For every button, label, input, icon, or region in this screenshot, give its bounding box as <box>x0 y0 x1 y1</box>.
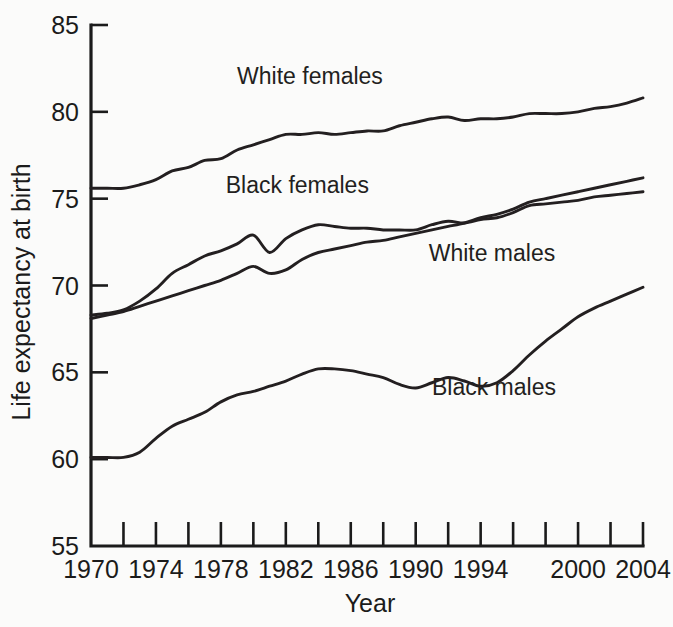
y-tick-label-group: 55606570758085 <box>51 11 79 560</box>
y-axis-tick-label: 85 <box>51 11 79 39</box>
y-axis-tick-label: 70 <box>51 272 79 300</box>
x-axis-tick-label: 1990 <box>388 555 444 583</box>
y-axis-tick-group <box>91 25 108 459</box>
x-axis-tick-label: 2004 <box>615 555 671 583</box>
x-axis-tick-label: 1970 <box>63 555 119 583</box>
chart-axes <box>91 25 643 546</box>
series-label-black-females: Black females <box>226 172 369 198</box>
chart-canvas: 55606570758085 1970197419781982198619901… <box>0 0 673 627</box>
y-axis-tick-label: 60 <box>51 445 79 473</box>
x-axis-tick-label: 1974 <box>128 555 184 583</box>
series-label-white-males: White males <box>429 240 556 266</box>
series-line-black-males <box>91 287 643 458</box>
x-axis-title: Year <box>345 589 396 617</box>
series-group <box>91 98 643 458</box>
y-axis-tick-label: 80 <box>51 98 79 126</box>
x-tick-label-group: 197019741978198219861990199420002004 <box>63 555 671 583</box>
x-axis-tick-label: 1982 <box>258 555 314 583</box>
series-line-white-males <box>91 178 643 319</box>
y-axis-tick-label: 65 <box>51 358 79 386</box>
series-label-white-females: White females <box>237 63 383 89</box>
x-axis-tick-group <box>123 522 643 546</box>
x-axis-tick-label: 1986 <box>323 555 379 583</box>
y-axis-tick-label: 75 <box>51 185 79 213</box>
life-expectancy-chart: 55606570758085 1970197419781982198619901… <box>0 0 673 627</box>
x-axis-tick-label: 1994 <box>453 555 509 583</box>
y-axis-title: Life expectancy at birth <box>7 163 35 420</box>
series-label-black-males: Black males <box>432 374 556 400</box>
x-axis-tick-label: 2000 <box>550 555 606 583</box>
x-axis-tick-label: 1978 <box>193 555 249 583</box>
